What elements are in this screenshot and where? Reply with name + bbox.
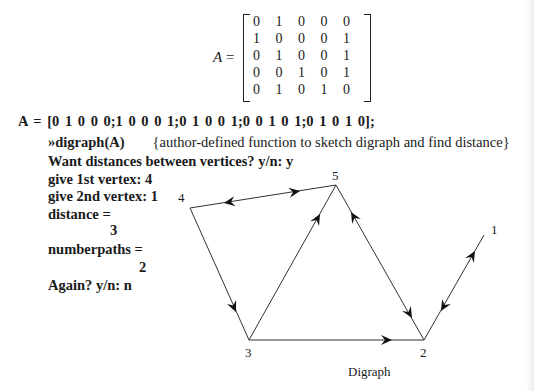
edge-2-1 <box>424 235 484 340</box>
arrow-2-to-1-icon <box>465 249 479 264</box>
digraph-drawing <box>0 0 534 391</box>
graph-edges <box>190 185 484 340</box>
arrow-5-to-2-icon <box>402 306 416 321</box>
edge-4-5 <box>190 185 336 208</box>
arrow-4-to-3-icon <box>227 300 241 314</box>
arrow-3-to-5-icon <box>310 212 324 226</box>
edge-4-3 <box>190 208 249 340</box>
vertex-label-1: 1 <box>491 222 498 238</box>
vertex-label-4: 4 <box>178 190 185 206</box>
graph-caption: Digraph <box>348 364 391 380</box>
graph-arrowheads <box>223 186 479 345</box>
arrow-2-to-5-icon <box>347 210 361 225</box>
arrow-1-to-2-icon <box>437 299 451 314</box>
vertex-label-3: 3 <box>245 345 252 361</box>
edge-3-5 <box>249 185 336 340</box>
vertex-label-5: 5 <box>332 168 339 184</box>
vertex-label-2: 2 <box>420 345 427 361</box>
